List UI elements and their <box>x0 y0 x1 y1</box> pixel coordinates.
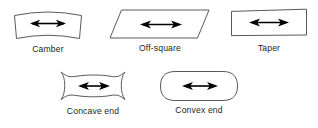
convex-end-shape-wrap <box>159 70 239 102</box>
taper-shape-svg <box>230 8 308 38</box>
camber-outline-path <box>15 12 82 39</box>
figure-convex-end: Convex end <box>158 70 240 115</box>
camber-shape-svg <box>12 8 84 40</box>
off-square-shape-svg <box>109 8 211 40</box>
taper-label: Taper <box>258 44 280 53</box>
figure-taper: Taper <box>229 8 309 53</box>
off-square-label: Off-square <box>139 44 181 53</box>
concave-end-label: Concave end <box>67 107 119 116</box>
off-square-shape-wrap <box>109 8 211 40</box>
camber-shape-wrap <box>12 8 84 40</box>
convex-end-shape-svg <box>159 70 239 102</box>
taper-shape-wrap <box>230 8 308 38</box>
concave-end-shape-svg <box>57 70 129 102</box>
figure-concave-end: Concave end <box>56 70 130 116</box>
diagram-canvas: Camber Off-square <box>0 0 318 128</box>
convex-end-label: Convex end <box>175 106 222 115</box>
figure-off-square: Off-square <box>108 8 212 53</box>
figure-camber: Camber <box>10 8 86 54</box>
camber-label: Camber <box>32 45 63 54</box>
concave-end-shape-wrap <box>57 70 129 102</box>
